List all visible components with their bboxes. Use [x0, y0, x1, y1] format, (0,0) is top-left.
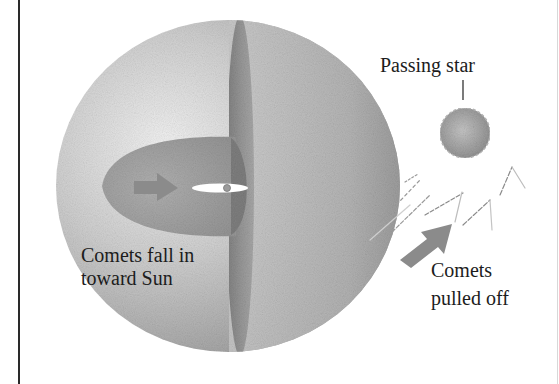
label-comets-fall-in: Comets fall in toward Sun	[81, 244, 194, 290]
label-comets-off-line1: Comets	[431, 256, 509, 284]
sun-icon	[224, 185, 231, 192]
label-comets-fall-line2: toward Sun	[81, 267, 194, 290]
passing-star	[440, 108, 490, 158]
planetary-disk	[192, 184, 248, 193]
label-comets-off-line2: pulled off	[431, 284, 509, 312]
label-passing-star: Passing star	[380, 54, 475, 77]
sun-and-planetary-disk	[192, 184, 248, 193]
label-comets-pulled-off: Comets pulled off	[431, 256, 509, 312]
oort-cloud-diagram	[0, 0, 559, 384]
label-comets-fall-line1: Comets fall in	[81, 244, 194, 267]
